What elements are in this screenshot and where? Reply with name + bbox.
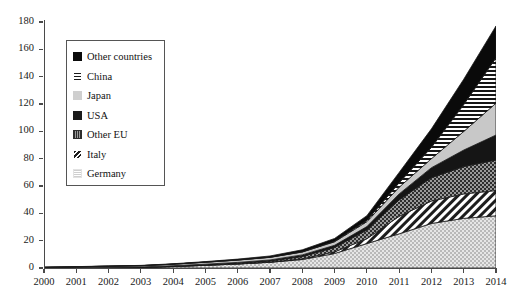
y-tick-label: 40	[4, 207, 34, 218]
y-tick	[39, 103, 43, 104]
y-tick-label: 60	[4, 180, 34, 191]
legend-label-china: China	[87, 71, 112, 82]
y-tick	[39, 76, 43, 77]
legend-swatch-other-eu	[73, 130, 82, 139]
y-tick-label: 160	[4, 43, 34, 54]
x-tick-label: 2014	[474, 276, 507, 287]
legend-swatch-china	[73, 72, 82, 81]
x-tick	[237, 269, 238, 273]
legend-swatch-germany	[73, 169, 82, 178]
y-tick	[39, 158, 43, 159]
legend-item-germany[interactable]: Germany	[73, 164, 164, 184]
y-tick-label: 120	[4, 98, 34, 109]
legend-swatch-japan	[73, 91, 82, 100]
legend-label-germany: Germany	[87, 168, 126, 179]
legend-swatch-other-countries	[73, 52, 82, 61]
y-tick	[39, 185, 43, 186]
legend-label-other-countries: Other countries	[87, 51, 152, 62]
x-tick	[43, 269, 44, 273]
y-tick	[39, 213, 43, 214]
legend-label-other-eu: Other EU	[87, 129, 128, 140]
y-axis-line	[44, 20, 45, 269]
legend-item-usa[interactable]: USA	[73, 106, 164, 126]
legend-label-japan: Japan	[87, 90, 111, 101]
x-tick	[431, 269, 432, 273]
stacked-area-chart: 020406080100120140160180 200020012002200…	[0, 0, 507, 303]
x-tick	[205, 269, 206, 273]
x-tick	[76, 269, 77, 273]
y-tick-label: 140	[4, 71, 34, 82]
legend-item-china[interactable]: China	[73, 67, 164, 87]
y-tick-label: 100	[4, 125, 34, 136]
x-tick	[302, 269, 303, 273]
legend-label-italy: Italy	[87, 149, 106, 160]
x-tick	[463, 269, 464, 273]
y-tick	[39, 131, 43, 132]
chart-legend: Other countries China Japan USA Other EU…	[66, 40, 165, 186]
legend-item-japan[interactable]: Japan	[73, 86, 164, 106]
y-tick	[39, 267, 43, 268]
legend-item-other-countries[interactable]: Other countries	[73, 47, 164, 67]
y-tick-label: 20	[4, 235, 34, 246]
x-tick	[334, 269, 335, 273]
x-tick	[399, 269, 400, 273]
x-tick	[495, 269, 496, 273]
y-tick-label: 80	[4, 153, 34, 164]
legend-label-usa: USA	[87, 110, 108, 121]
x-tick	[173, 269, 174, 273]
legend-item-italy[interactable]: Italy	[73, 145, 164, 165]
legend-swatch-italy	[73, 150, 82, 159]
y-tick	[39, 49, 43, 50]
y-tick	[39, 240, 43, 241]
y-tick	[39, 21, 43, 22]
x-tick	[269, 269, 270, 273]
x-tick	[366, 269, 367, 273]
x-tick	[108, 269, 109, 273]
x-tick	[140, 269, 141, 273]
legend-swatch-usa	[73, 111, 82, 120]
y-tick-label: 180	[4, 16, 34, 27]
legend-item-other-eu[interactable]: Other EU	[73, 125, 164, 145]
y-tick-label: 0	[4, 262, 34, 273]
